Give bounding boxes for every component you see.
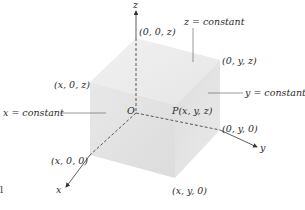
vertex-0-y-0: (0, y, 0) (222, 123, 258, 134)
origin-label: O (127, 105, 135, 116)
z-axis-label: z (132, 0, 139, 10)
vertex-0-0-z: (0, 0, z) (139, 26, 176, 37)
page-marker: l (0, 184, 3, 195)
vertex-0-y-z: (0, y, z) (222, 55, 257, 66)
z-constant-label: z = constant (183, 16, 245, 27)
y-constant-label: y = constant (244, 87, 305, 98)
coordinate-box-diagram: z x y O P(x, y, z) (0, 0, z) (x, 0, z) (… (0, 0, 305, 210)
point-p-label: P(x, y, z) (171, 105, 213, 116)
y-axis-label: y (259, 142, 266, 153)
vertex-x-0-0: (x, 0, 0) (51, 155, 88, 166)
vertex-x-y-0: (x, y, 0) (172, 185, 207, 196)
x-axis-label: x (56, 184, 62, 195)
vertex-x-0-z: (x, 0, z) (54, 79, 90, 90)
x-constant-label: x = constant (3, 107, 64, 118)
